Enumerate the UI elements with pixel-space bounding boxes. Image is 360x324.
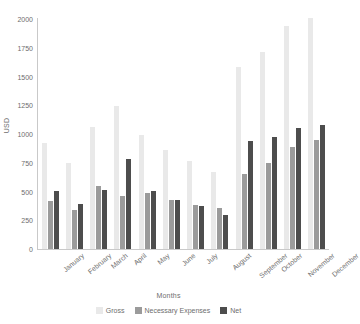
bar[interactable] xyxy=(48,201,53,249)
bar[interactable] xyxy=(193,205,198,249)
x-axis-tick-label: January xyxy=(62,252,86,273)
bar-group[interactable] xyxy=(305,18,329,249)
bar-group[interactable] xyxy=(184,18,208,249)
x-axis-tick-label: April xyxy=(132,252,147,266)
bar[interactable] xyxy=(163,150,168,249)
x-axis-tick-label: March xyxy=(109,252,128,270)
legend-item-label: Necessary Expenses xyxy=(145,307,211,314)
legend-item[interactable]: Necessary Expenses xyxy=(135,307,211,314)
y-axis-tick-label: 1250 xyxy=(7,102,33,109)
bar[interactable] xyxy=(187,161,192,249)
bar[interactable] xyxy=(248,141,253,249)
legend-item[interactable]: Net xyxy=(220,307,241,314)
bar-group[interactable] xyxy=(232,18,256,249)
bar[interactable] xyxy=(139,135,144,249)
y-axis-tick-label: 500 xyxy=(7,188,33,195)
x-axis-tick-label: June xyxy=(181,252,197,267)
x-axis-line xyxy=(37,249,329,250)
chart-legend: GrossNecessary ExpensesNet xyxy=(0,307,337,314)
bar[interactable] xyxy=(120,196,125,249)
bar-group[interactable] xyxy=(87,18,111,249)
x-axis-tick-label: May xyxy=(156,252,171,266)
bar-group[interactable] xyxy=(208,18,232,249)
bar[interactable] xyxy=(242,174,247,249)
bar[interactable] xyxy=(169,200,174,249)
bar[interactable] xyxy=(42,143,47,249)
x-axis-title: Months xyxy=(0,292,337,299)
legend-swatch-icon xyxy=(220,307,227,314)
bar[interactable] xyxy=(72,210,77,249)
bar[interactable] xyxy=(320,125,325,249)
bar[interactable] xyxy=(151,191,156,249)
bar[interactable] xyxy=(66,163,71,249)
bar[interactable] xyxy=(211,172,216,249)
bar[interactable] xyxy=(126,159,131,249)
y-axis-tick-label: 1750 xyxy=(7,44,33,51)
y-axis-title: USD xyxy=(3,106,10,146)
x-axis-ticks: JanuaryFebruaryMarchAprilMayJuneJulyAugu… xyxy=(38,252,329,292)
bar[interactable] xyxy=(96,186,101,249)
bar[interactable] xyxy=(78,204,83,249)
bar-group[interactable] xyxy=(135,18,159,249)
bar-group[interactable] xyxy=(159,18,183,249)
bar-group[interactable] xyxy=(256,18,280,249)
bar[interactable] xyxy=(266,163,271,249)
bar[interactable] xyxy=(114,106,119,249)
legend-item-label: Gross xyxy=(106,307,125,314)
y-axis-tick-label: 0 xyxy=(7,246,33,253)
bar[interactable] xyxy=(54,191,59,249)
bar[interactable] xyxy=(223,215,228,250)
bar[interactable] xyxy=(175,200,180,249)
x-axis-tick-label: August xyxy=(231,252,252,271)
bar[interactable] xyxy=(314,140,319,249)
y-axis-tick-label: 2000 xyxy=(7,16,33,23)
bar[interactable] xyxy=(236,67,241,249)
bar-group[interactable] xyxy=(281,18,305,249)
legend-swatch-icon xyxy=(135,307,142,314)
bar[interactable] xyxy=(284,26,289,249)
bar[interactable] xyxy=(199,206,204,249)
x-axis-tick-label: July xyxy=(205,252,219,265)
bar-group[interactable] xyxy=(62,18,86,249)
legend-item-label: Net xyxy=(230,307,241,314)
bar-group[interactable] xyxy=(38,18,62,249)
plot-area: 025050075010001250150017502000 xyxy=(37,18,329,250)
bar[interactable] xyxy=(296,128,301,249)
y-axis-tick-label: 750 xyxy=(7,159,33,166)
y-axis-tick-label: 250 xyxy=(7,217,33,224)
y-axis-tick-label: 1000 xyxy=(7,131,33,138)
bar[interactable] xyxy=(272,137,277,249)
legend-item[interactable]: Gross xyxy=(96,307,125,314)
legend-swatch-icon xyxy=(96,307,103,314)
bar[interactable] xyxy=(90,127,95,249)
bar[interactable] xyxy=(102,190,107,249)
y-axis-tick-label: 1500 xyxy=(7,73,33,80)
bar[interactable] xyxy=(145,193,150,249)
bar[interactable] xyxy=(260,52,265,249)
bar[interactable] xyxy=(308,18,313,249)
bar-group[interactable] xyxy=(111,18,135,249)
bars-layer xyxy=(38,18,329,249)
bar[interactable] xyxy=(217,208,222,249)
bar[interactable] xyxy=(290,147,295,249)
